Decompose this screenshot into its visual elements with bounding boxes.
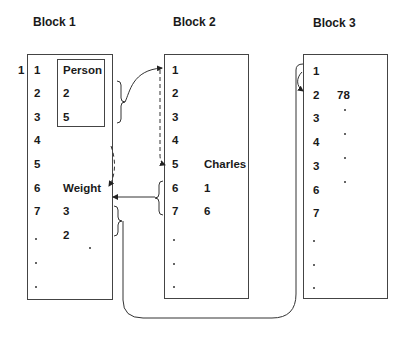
brace-block1-rows2-3: [117, 81, 125, 123]
brace-block2-rows6-7: [155, 181, 163, 215]
brace-block1-rows7-8: [114, 206, 122, 236]
dashed-arrow-block2-row1-to-row5: [160, 70, 165, 165]
dashed-arrow-block1-row4-to-row6: [109, 146, 115, 186]
arrow-block3-row1-to-row2: [298, 72, 303, 91]
connector-block1-to-block3: [123, 64, 303, 318]
arrow-to-block2-row1: [125, 68, 162, 102]
connector-layer: [0, 0, 407, 337]
